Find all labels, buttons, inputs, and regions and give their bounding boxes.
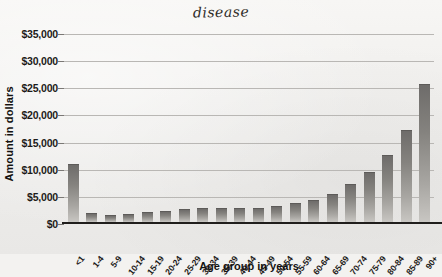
- bar: [234, 208, 245, 222]
- bar-slot: [83, 32, 102, 222]
- bar-slot: [342, 32, 361, 222]
- x-axis-line: [62, 222, 442, 225]
- bar-slot: [249, 32, 268, 222]
- bar: [68, 164, 79, 222]
- bar-slot: [101, 32, 120, 222]
- y-axis-title-text: Amount in dollars: [3, 86, 15, 181]
- bar: [197, 208, 208, 222]
- x-axis-title: Age group in years: [64, 260, 434, 272]
- bar-slot: [120, 32, 139, 222]
- bar-series: [64, 32, 434, 222]
- bar: [179, 209, 190, 222]
- bar: [160, 211, 171, 222]
- bar: [419, 84, 430, 222]
- bar: [327, 194, 338, 222]
- bar: [253, 208, 264, 222]
- bar-slot: [416, 32, 435, 222]
- bar-slot: [231, 32, 250, 222]
- bar: [216, 208, 227, 222]
- bar-slot: [212, 32, 231, 222]
- bar-chart: Amount in dollars $0$5,000$10,000$15,000…: [0, 24, 442, 254]
- bar-slot: [138, 32, 157, 222]
- bar: [290, 203, 301, 222]
- bar: [382, 155, 393, 222]
- bar: [364, 172, 375, 222]
- bar-slot: [268, 32, 287, 222]
- bar-slot: [323, 32, 342, 222]
- bar-slot: [379, 32, 398, 222]
- bar-slot: [175, 32, 194, 222]
- bar-slot: [397, 32, 416, 222]
- bar: [345, 184, 356, 222]
- bar-slot: [360, 32, 379, 222]
- plot-area: $0$5,000$10,000$15,000$20,000$25,000$30,…: [64, 32, 434, 224]
- y-axis-tick-mark: [58, 224, 64, 225]
- bar: [308, 200, 319, 222]
- bar-slot: [305, 32, 324, 222]
- bar: [401, 130, 412, 222]
- bar-slot: [194, 32, 213, 222]
- bar-slot: [64, 32, 83, 222]
- bar-slot: [157, 32, 176, 222]
- x-axis-tick-labels: <11-45-910-1415-1920-2425-2930-3435-3940…: [64, 230, 434, 264]
- y-axis-title: Amount in dollars: [2, 64, 16, 204]
- bar-slot: [286, 32, 305, 222]
- bar: [271, 206, 282, 222]
